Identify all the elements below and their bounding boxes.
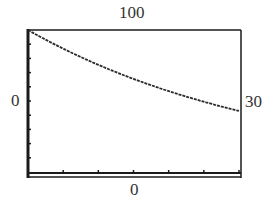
plot-area: [0, 0, 274, 205]
ymax-label: 100: [119, 4, 145, 21]
xmax-label: 30: [245, 93, 262, 110]
decay-curve: [28, 30, 239, 111]
xmin-label: 0: [11, 92, 20, 109]
ymin-label: 0: [130, 181, 139, 198]
